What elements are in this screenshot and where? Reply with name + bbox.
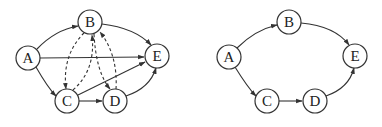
node-e: E	[343, 44, 367, 68]
node-a-label: A	[23, 50, 34, 66]
edge-a-c	[36, 67, 56, 96]
left-graph: A B C D E	[16, 10, 169, 113]
node-d-label: D	[310, 93, 321, 109]
node-e-label: E	[350, 48, 359, 64]
node-a: A	[217, 45, 241, 69]
node-e: E	[145, 44, 169, 68]
node-e-label: E	[152, 48, 161, 64]
edge-b-e	[102, 24, 151, 45]
node-c-label: C	[262, 93, 272, 109]
node-b-label: B	[85, 14, 95, 30]
right-graph: A B C D E	[217, 10, 367, 113]
node-d: D	[103, 89, 127, 113]
edge-a-b	[237, 25, 277, 48]
node-b: B	[277, 10, 301, 34]
node-b: B	[78, 10, 102, 34]
edge-a-c	[235, 67, 256, 96]
edge-d-e	[126, 68, 156, 96]
diagram-canvas: A B C D E A B	[0, 0, 382, 127]
node-c: C	[55, 89, 79, 113]
node-a: A	[16, 46, 40, 70]
edge-a-b	[37, 26, 78, 49]
node-b-label: B	[284, 14, 294, 30]
node-d-label: D	[110, 93, 121, 109]
node-d: D	[303, 89, 327, 113]
node-c-label: C	[62, 93, 72, 109]
node-c: C	[255, 89, 279, 113]
edge-d-e	[326, 68, 354, 96]
edge-b-e	[301, 23, 349, 45]
node-a-label: A	[224, 49, 235, 65]
